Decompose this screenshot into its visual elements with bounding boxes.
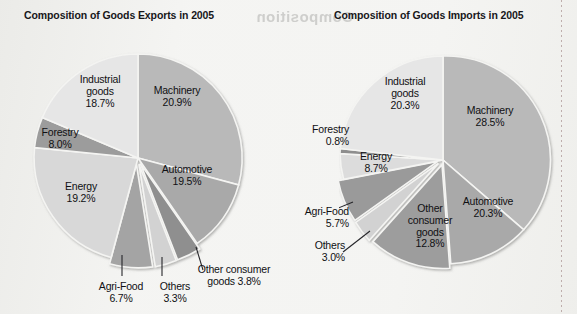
scanned-figure-page: Composition Composition of Goods Exports… bbox=[0, 0, 577, 314]
imports-label-industrial-goods: Industrial goods 20.3% bbox=[369, 76, 441, 111]
imports-label-machinery: Machinery 28.5% bbox=[452, 105, 528, 129]
imports-label-other-consumer-goods: Other consumer goods 12.8% bbox=[398, 203, 462, 250]
imports-label-agri-food: Agri-Food 5.7% bbox=[283, 206, 349, 230]
imports-label-others: Others 3.0% bbox=[297, 240, 345, 264]
exports-label-automotive: Automotive 19.5% bbox=[147, 164, 227, 188]
imports-label-energy: Energy 8.7% bbox=[345, 151, 407, 175]
imports-label-forestry: Forestry 0.8% bbox=[287, 124, 349, 148]
exports-label-other-consumer-goods: Other consumer goods 3.8% bbox=[186, 264, 282, 288]
exports-label-forestry: Forestry 8.0% bbox=[27, 127, 93, 151]
exports-label-energy: Energy 19.2% bbox=[50, 181, 112, 205]
exports-chart-title: Composition of Goods Exports in 2005 bbox=[24, 9, 214, 21]
page-edge-dotted-divider bbox=[561, 0, 562, 314]
imports-chart-title: Composition of Goods Imports in 2005 bbox=[334, 9, 524, 21]
exports-label-industrial-goods: Industrial goods 18.7% bbox=[63, 74, 137, 109]
exports-label-agri-food: Agri-Food 6.7% bbox=[88, 281, 154, 305]
exports-label-machinery: Machinery 20.9% bbox=[140, 85, 214, 109]
imports-leader-others bbox=[343, 231, 370, 252]
